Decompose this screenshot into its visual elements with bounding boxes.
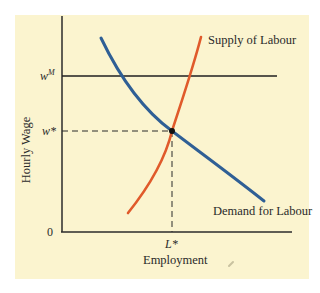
w-star-label: w* (42, 124, 56, 138)
w-min-label: wM (40, 68, 56, 83)
labour-market-chart: Supply of Labour Demand for Labour wM w*… (0, 0, 320, 293)
w-min-sup: M (47, 68, 56, 77)
stray-mark (229, 262, 233, 266)
x-axis-label: Employment (143, 253, 208, 267)
l-star-label: L* (164, 237, 178, 251)
supply-label: Supply of Labour (208, 33, 297, 47)
demand-curve (101, 38, 264, 201)
y-axis-label: Hourly Wage (19, 116, 33, 183)
w-min-base: w (40, 69, 48, 83)
demand-label: Demand for Labour (213, 204, 313, 218)
equilibrium-point (169, 128, 175, 134)
origin-label: 0 (47, 225, 53, 239)
